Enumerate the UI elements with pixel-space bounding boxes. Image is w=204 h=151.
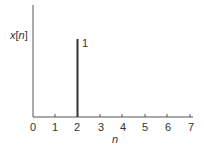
tick-label-5: 5 xyxy=(142,121,148,133)
tick-label-0: 0 xyxy=(30,121,36,133)
tick-label-3: 3 xyxy=(98,121,104,133)
tick-label-2: 2 xyxy=(74,121,80,133)
tick-label-4: 4 xyxy=(120,121,126,133)
tick-label-6: 6 xyxy=(165,121,171,133)
stem-plot: x[n] 1 0 1 2 3 4 5 6 7 n xyxy=(0,0,204,151)
x-axis-label: n xyxy=(112,133,118,145)
y-axis-label: x[n] xyxy=(9,29,28,41)
stem-value-label: 1 xyxy=(82,37,88,49)
tick-label-1: 1 xyxy=(52,121,58,133)
tick-label-7: 7 xyxy=(188,121,194,133)
x-tick-labels: 0 1 2 3 4 5 6 7 xyxy=(30,121,194,133)
